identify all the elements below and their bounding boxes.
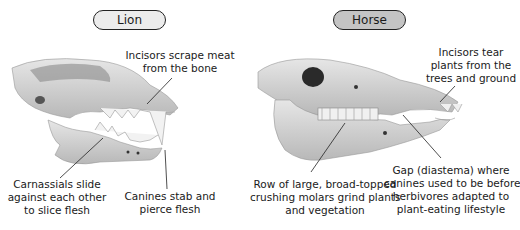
label-line: trees and ground xyxy=(423,72,519,85)
horse-title: Horse xyxy=(352,13,387,27)
label-line: to slice flesh xyxy=(2,204,112,217)
label-line: plants from the xyxy=(423,59,519,72)
label-line: Canines stab and xyxy=(122,190,218,203)
label-line: Carnassials slide xyxy=(2,178,112,191)
label-line: pierce flesh xyxy=(122,203,218,216)
lion-title-badge: Lion xyxy=(93,10,166,30)
label-line: Incisors scrape meat xyxy=(125,49,235,62)
label-line: from the bone xyxy=(125,62,235,75)
label-line: Row of large, broad-topped xyxy=(250,178,400,191)
label-line: canines used to be before xyxy=(384,177,518,190)
horse-title-badge: Horse xyxy=(333,10,406,30)
horse-gap-label: Gap (diastema) where canines used to be … xyxy=(384,164,518,216)
horse-incisors-label: Incisors tear plants from the trees and … xyxy=(423,46,519,85)
lion-incisors-label: Incisors scrape meat from the bone xyxy=(125,49,235,75)
lion-canines-label: Canines stab and pierce flesh xyxy=(122,190,218,216)
label-line: against each other xyxy=(2,191,112,204)
label-line: Gap (diastema) where xyxy=(384,164,518,177)
label-line: crushing molars grind plants xyxy=(250,191,400,204)
label-line: and vegetation xyxy=(250,204,400,217)
label-line: herbivores adapted to xyxy=(384,190,518,203)
lion-title: Lion xyxy=(117,13,142,27)
horse-molars-label: Row of large, broad-topped crushing mola… xyxy=(250,178,400,217)
lion-carnassials-label: Carnassials slide against each other to … xyxy=(2,178,112,217)
label-line: plant-eating lifestyle xyxy=(384,203,518,216)
label-line: Incisors tear xyxy=(423,46,519,59)
